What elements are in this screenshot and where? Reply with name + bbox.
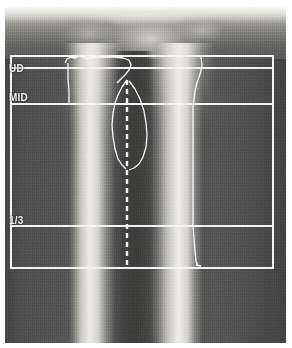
roi-label-mid: MID [9,93,28,103]
scan-grain-texture [5,7,286,343]
dxa-scan-viewer: UD MID 1/3 [0,0,292,348]
scan-image [5,7,286,343]
roi-label-one-third: 1/3 [9,216,24,226]
roi-label-ud: UD [9,64,24,74]
